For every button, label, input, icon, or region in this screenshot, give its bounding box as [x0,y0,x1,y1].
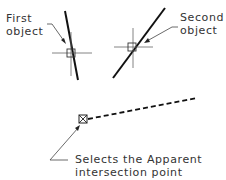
second-leader-arrowhead [144,38,150,43]
caption-line1: Selects the Apparent [75,154,202,166]
dashed-extension-line [88,98,197,119]
first-object-label-line2: object [6,26,44,38]
second-leader-line [147,27,178,41]
second-object-line [113,8,165,78]
first-object-line [65,11,78,80]
first-object-label-line1: First [6,13,32,25]
second-object-group [113,8,178,78]
first-object-group [47,11,92,80]
caption-leader-line [50,128,78,160]
caption-line2: intersection point [75,167,183,179]
apparent-intersection-diagram: First object Second object Selects the A… [0,0,226,180]
second-object-label-line2: object [180,25,218,37]
first-leader-arrowhead [61,38,66,44]
second-object-label-line1: Second [180,12,224,24]
first-leader-line [47,24,64,41]
apparent-intersection-group [50,98,197,160]
